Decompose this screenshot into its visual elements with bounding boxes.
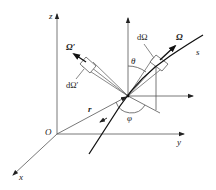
label-r: r	[88, 104, 92, 114]
label-omega: Ω	[176, 32, 183, 42]
theta-arc	[128, 66, 146, 72]
solid-angle-leader	[144, 44, 154, 58]
label-z: z	[48, 11, 53, 21]
solid-angle-prime-leader	[76, 69, 84, 79]
projection-line	[128, 96, 160, 113]
label-origin: O	[45, 127, 52, 137]
label-s: s	[196, 47, 200, 57]
position-vector-r	[57, 97, 126, 134]
label-phi: φ	[127, 113, 132, 123]
label-d-omega-prime: dΩ′	[66, 80, 79, 90]
coordinate-diagram: z y x O r s Ω Ω′ dΩ dΩ′ θ φ	[0, 0, 216, 190]
label-theta: θ	[131, 56, 136, 66]
path-direction-arrow	[100, 118, 107, 122]
label-y: y	[176, 137, 181, 147]
omega-prime-arrow	[74, 54, 86, 62]
label-x: x	[18, 172, 23, 182]
x-axis	[13, 134, 57, 175]
point-p	[127, 95, 130, 98]
label-d-omega: dΩ	[137, 32, 148, 42]
solid-angle-cone-prime	[76, 57, 128, 96]
diagram-canvas: z y x O r s Ω Ω′ dΩ dΩ′ θ φ	[0, 0, 216, 190]
label-omega-prime: Ω′	[66, 42, 76, 52]
global-axes	[13, 14, 184, 175]
path-s	[89, 35, 203, 154]
phi-arc	[116, 102, 145, 113]
